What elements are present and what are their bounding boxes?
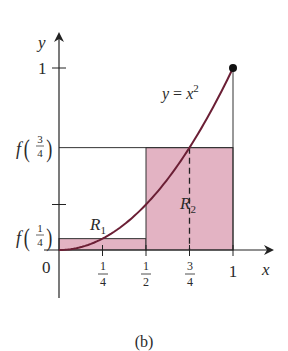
svg-text:4: 4 [100,275,106,289]
svg-text:4: 4 [37,147,43,159]
svg-text:): ) [46,223,52,252]
svg-text:(: ( [24,134,30,163]
riemann-diagram: y x 1 0 y = x2 R1 R2 1 4 1 2 3 4 1 f ( 1… [0,0,288,351]
svg-text:1: 1 [100,259,106,273]
svg-text:f: f [16,228,24,248]
y-label-f-quarter: f ( 1 4 ) [16,222,52,252]
function-label: y = x2 [160,82,199,103]
y-label-f-three-quarters: f ( 3 4 ) [16,133,52,163]
x-tick-label-three-quarters: 3 4 [185,259,195,289]
svg-text:f: f [16,139,24,159]
svg-text:3: 3 [187,259,193,273]
y-axis-label: y [36,33,46,52]
svg-text:4: 4 [187,275,193,289]
svg-text:1: 1 [37,222,43,234]
origin-label: 0 [42,258,51,277]
svg-text:1: 1 [143,259,149,273]
svg-text:): ) [46,134,52,163]
figure-caption: (b) [135,333,154,351]
svg-text:4: 4 [37,236,43,248]
svg-text:(: ( [24,223,30,252]
svg-text:2: 2 [143,275,149,289]
region-r1-label: R1 [89,215,106,236]
endpoint-dot [229,64,237,72]
x-axis-label: x [261,260,270,279]
y-tick-label-one: 1 [38,59,47,78]
x-tick-label-one: 1 [229,262,238,281]
x-tick-label-half: 1 2 [141,259,151,289]
x-tick-label-quarter: 1 4 [98,259,108,289]
svg-text:3: 3 [37,133,43,145]
